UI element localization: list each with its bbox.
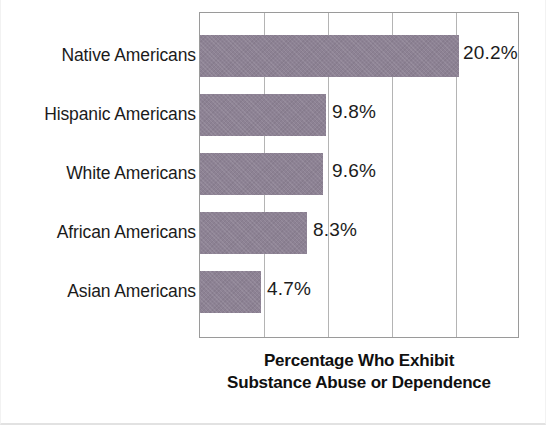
x-axis-title-line-2: Substance Abuse or Dependence <box>199 372 519 394</box>
category-label-hispanic-americans: Hispanic Americans <box>0 106 196 124</box>
bar-white-americans <box>200 153 323 195</box>
x-axis-title-line-1: Percentage Who Exhibit <box>199 350 519 372</box>
category-label-native-americans: Native Americans <box>0 47 196 65</box>
x-axis-title: Percentage Who Exhibit Substance Abuse o… <box>199 350 519 395</box>
category-label-asian-americans: Asian Americans <box>0 283 196 301</box>
value-label-native-americans: 20.2% <box>463 43 518 62</box>
value-label-asian-americans: 4.7% <box>267 279 311 298</box>
bar-hispanic-americans <box>200 94 326 136</box>
bar-asian-americans <box>200 271 261 313</box>
bar-african-americans <box>200 212 307 254</box>
category-label-white-americans: White Americans <box>0 165 196 183</box>
bar-native-americans <box>200 35 459 77</box>
value-label-hispanic-americans: 9.8% <box>332 102 376 121</box>
value-label-white-americans: 9.6% <box>332 161 376 180</box>
category-label-african-americans: African Americans <box>0 224 196 242</box>
bar-chart-figure: Native Americans Hispanic Americans Whit… <box>0 0 546 425</box>
value-label-african-americans: 8.3% <box>313 220 357 239</box>
